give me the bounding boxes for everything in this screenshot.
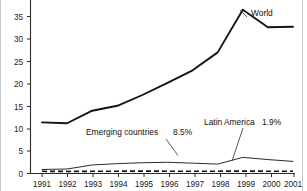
leader-line-emerging-countries bbox=[166, 139, 178, 156]
annotation-world: World bbox=[251, 8, 273, 18]
x-tick-label-1998: 1998 bbox=[211, 180, 230, 189]
series-line-emerging-countries bbox=[42, 157, 293, 169]
x-tick-label-2001: 2001 bbox=[284, 180, 303, 189]
series-line-world bbox=[42, 10, 293, 123]
x-tick-label-1992: 1992 bbox=[58, 180, 77, 189]
x-tick-label-1991: 1991 bbox=[33, 180, 52, 189]
annotation-emerging-countries-value: 8.5% bbox=[173, 127, 193, 137]
x-tick-label-1995: 1995 bbox=[135, 180, 154, 189]
y-tick-label-15: 15 bbox=[14, 103, 24, 112]
y-tick-label-0: 0 bbox=[18, 170, 23, 179]
annotation-emerging-countries: Emerging countries bbox=[86, 127, 158, 137]
x-tick-label-1993: 1993 bbox=[84, 180, 103, 189]
y-tick-label-25: 25 bbox=[14, 58, 24, 67]
annotation-latin-america-value: 1.9% bbox=[262, 117, 282, 127]
x-tick-label-1999: 1999 bbox=[237, 180, 256, 189]
annotation-latin-america: Latin America bbox=[204, 117, 255, 127]
y-tick-label-10: 10 bbox=[14, 125, 24, 134]
y-tick-label-20: 20 bbox=[14, 80, 24, 89]
x-tick-label-1997: 1997 bbox=[186, 180, 205, 189]
x-tick-label-1996: 1996 bbox=[160, 180, 179, 189]
chart-figure: 35 30 25 20 15 10 5 0 1991 1992 1993 199… bbox=[0, 0, 307, 191]
x-tick-label-1994: 1994 bbox=[109, 180, 128, 189]
x-tick-label-2000: 2000 bbox=[262, 180, 281, 189]
y-tick-label-30: 30 bbox=[14, 35, 24, 44]
y-tick-label-35: 35 bbox=[14, 13, 24, 22]
y-tick-label-5: 5 bbox=[18, 147, 23, 156]
leader-line-latin-america bbox=[232, 128, 243, 161]
line-chart: 35 30 25 20 15 10 5 0 1991 1992 1993 199… bbox=[0, 0, 307, 191]
